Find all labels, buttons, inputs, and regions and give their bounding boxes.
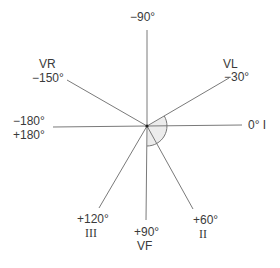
- label-lead-vf: VF: [137, 239, 152, 253]
- label-lead-iii: III: [85, 226, 97, 240]
- label-plus120: +120°: [77, 212, 109, 226]
- label-plus180: +180°: [13, 128, 45, 142]
- label-lead-ii: II: [199, 227, 207, 241]
- label-minus90: −90°: [130, 10, 155, 24]
- label-minus180: −180°: [13, 114, 45, 128]
- label-minus30: −30°: [224, 70, 249, 84]
- axis-line-minus150-lead-vr: [67, 80, 147, 126]
- label-lead-vl: VL: [223, 57, 238, 71]
- axis-line-plus60-lead-ii: [147, 126, 193, 209]
- label-zero-lead-i: 0° I: [248, 118, 266, 132]
- label-lead-vr: VR: [39, 57, 56, 71]
- axis-line-plus120-lead-iii: [99, 126, 147, 208]
- label-plus90: +90°: [134, 225, 159, 239]
- center-point: [145, 124, 148, 127]
- axis-line-180: [53, 126, 147, 127]
- label-minus150: −150°: [32, 71, 64, 85]
- axis-line-minus30-lead-vl: [147, 78, 229, 126]
- label-plus60: +60°: [193, 213, 218, 227]
- axis-line-plus90-lead-vf: [146, 126, 147, 220]
